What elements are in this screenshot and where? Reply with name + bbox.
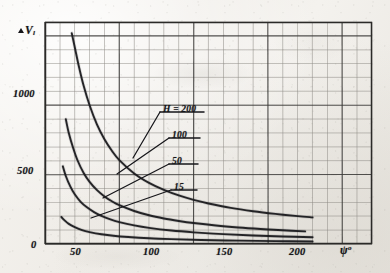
y-axis-title: Vl bbox=[18, 24, 35, 37]
y-tick-500: 500 bbox=[17, 165, 33, 176]
y-axis-subscript: l bbox=[33, 29, 35, 37]
curve-label-15: 15 bbox=[174, 182, 184, 192]
plot-area bbox=[45, 22, 372, 244]
x-tick-50: 50 bbox=[70, 246, 81, 257]
curve-label-100: 100 bbox=[172, 130, 187, 140]
delta-triangle-icon bbox=[18, 28, 24, 33]
x-axis-superscript: o bbox=[348, 244, 352, 252]
x-axis-symbol: ψ bbox=[340, 244, 348, 256]
x-tick-200: 200 bbox=[289, 246, 305, 257]
y-tick-0: 0 bbox=[31, 239, 36, 250]
y-axis-symbol: V bbox=[25, 24, 33, 36]
figure-root: Vl 1000 500 0 50 100 150 200 ψo H = 200 … bbox=[0, 0, 390, 273]
curve-label-h200: H = 200 bbox=[163, 104, 196, 114]
curve-label-50: 50 bbox=[172, 156, 182, 166]
x-tick-150: 150 bbox=[216, 246, 232, 257]
leader-line-layer bbox=[45, 22, 372, 244]
y-tick-1000: 1000 bbox=[13, 88, 35, 99]
x-tick-100: 100 bbox=[143, 246, 159, 257]
x-axis-title: ψo bbox=[340, 244, 352, 256]
